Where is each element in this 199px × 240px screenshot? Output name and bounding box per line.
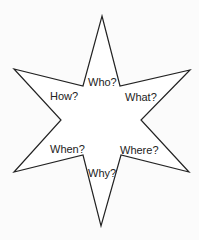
label-how: How? bbox=[50, 90, 78, 102]
label-who: Who? bbox=[88, 76, 117, 88]
label-why: Why? bbox=[88, 167, 116, 179]
star-diagram: Who? How? What? When? Where? Why? bbox=[0, 0, 199, 240]
label-what: What? bbox=[125, 91, 157, 103]
star-shape bbox=[14, 16, 190, 226]
label-when: When? bbox=[50, 143, 85, 155]
label-where: Where? bbox=[120, 144, 159, 156]
